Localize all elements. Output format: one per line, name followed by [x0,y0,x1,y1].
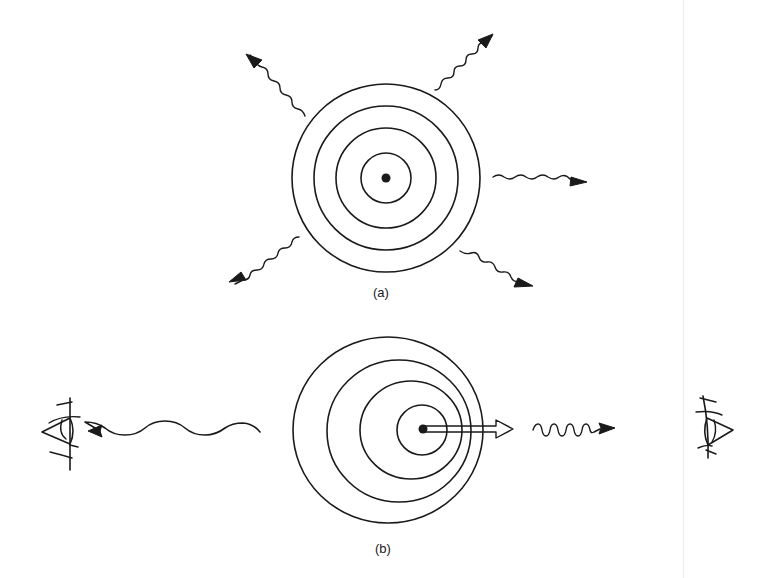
panel-a-label: (a) [373,285,389,300]
panel-b-label: (b) [375,541,391,556]
short-wave-arrow-right-icon [533,423,615,436]
long-wave-arrow-left-icon [85,421,260,437]
wave-arrow-upper-left-icon [246,54,305,116]
wave-arrow-upper-right-icon [435,34,493,90]
wave-arrow-lower-right-icon [460,251,533,287]
wave-arrow-lower-left-icon [229,237,299,284]
panel-b [42,337,733,523]
panel-a [229,34,587,287]
source-dot-b [419,425,428,434]
right-observer-eye-icon [696,396,733,458]
wave-arrow-right-icon [493,175,587,186]
left-observer-eye-icon [42,398,80,470]
wavefront-b-3 [327,360,471,502]
source-velocity-arrow-icon [424,420,513,438]
source-dot-a [382,174,391,183]
wavefront-b-4 [293,337,483,523]
